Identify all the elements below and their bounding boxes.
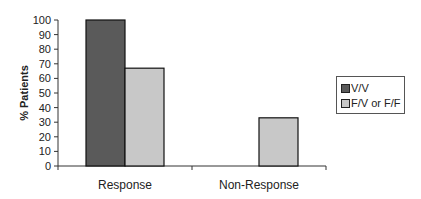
y-tick-label: 80 (39, 43, 51, 55)
y-tick-label: 10 (39, 145, 51, 157)
y-tick-label: 60 (39, 72, 51, 84)
x-tick-label: Non-Response (219, 178, 299, 192)
legend-item-fv-ff: F/V or F/F (341, 97, 401, 109)
y-axis-label: % Patients (18, 65, 30, 121)
legend: V/V F/V or F/F (336, 76, 405, 114)
y-tick-label: 30 (39, 116, 51, 128)
bar (259, 118, 298, 166)
y-tick-label: 50 (39, 87, 51, 99)
y-tick-label: 100 (33, 14, 51, 26)
legend-label-vv: V/V (351, 82, 369, 94)
legend-label-fv-ff: F/V or F/F (351, 97, 401, 109)
y-tick-label: 0 (45, 160, 51, 172)
bar (125, 68, 164, 166)
y-tick-label: 20 (39, 131, 51, 143)
y-tick-label: 70 (39, 58, 51, 70)
y-tick-label: 40 (39, 102, 51, 114)
legend-swatch-fv-ff (341, 99, 350, 108)
y-tick-label: 90 (39, 29, 51, 41)
x-tick-label: Response (98, 178, 152, 192)
legend-swatch-vv (341, 84, 350, 93)
legend-item-vv: V/V (341, 82, 369, 94)
bar (86, 20, 125, 166)
